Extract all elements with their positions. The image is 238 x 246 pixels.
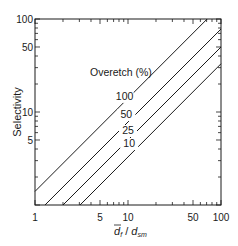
series-label-100: 100 — [116, 90, 134, 102]
x-axis-title: df / dsm — [114, 225, 147, 238]
legend-title: Overetch (%) — [90, 66, 152, 78]
x-tick-label: 10 — [122, 212, 134, 223]
y-tick-label: 100 — [16, 14, 33, 25]
y-tick-label: 10 — [22, 107, 34, 118]
x-tick-label: 100 — [213, 212, 230, 223]
series-labels: 100502510 — [116, 90, 139, 150]
y-tick-label: 50 — [22, 42, 34, 53]
x-tick-label: 1 — [32, 212, 38, 223]
y-axis-title: Selectivity — [11, 87, 23, 137]
overetch-selectivity-chart: 15105010051050100 100502510 Overetch (%)… — [0, 0, 238, 246]
x-axis-title-text: df / dsm — [114, 225, 147, 238]
y-tick-label: 5 — [27, 135, 33, 146]
series-line-100 — [35, 19, 207, 191]
x-tick-label: 50 — [187, 212, 199, 223]
x-tick-label: 5 — [97, 212, 103, 223]
series-line-10 — [80, 64, 221, 205]
series-label-50: 50 — [121, 108, 133, 120]
series-label-10: 10 — [123, 137, 135, 149]
series-label-25: 25 — [122, 124, 134, 136]
